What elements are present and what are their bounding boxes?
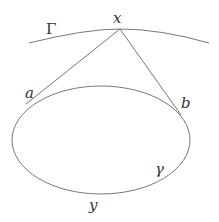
diagram-canvas: Γ x a b γ y bbox=[0, 0, 219, 222]
label-x: x bbox=[113, 9, 122, 27]
label-y: y bbox=[88, 196, 98, 214]
label-gamma: γ bbox=[155, 160, 164, 178]
label-b: b bbox=[181, 94, 191, 112]
label-a: a bbox=[25, 84, 34, 102]
label-Gamma: Γ bbox=[46, 20, 56, 38]
segment-x-b bbox=[120, 29, 181, 115]
